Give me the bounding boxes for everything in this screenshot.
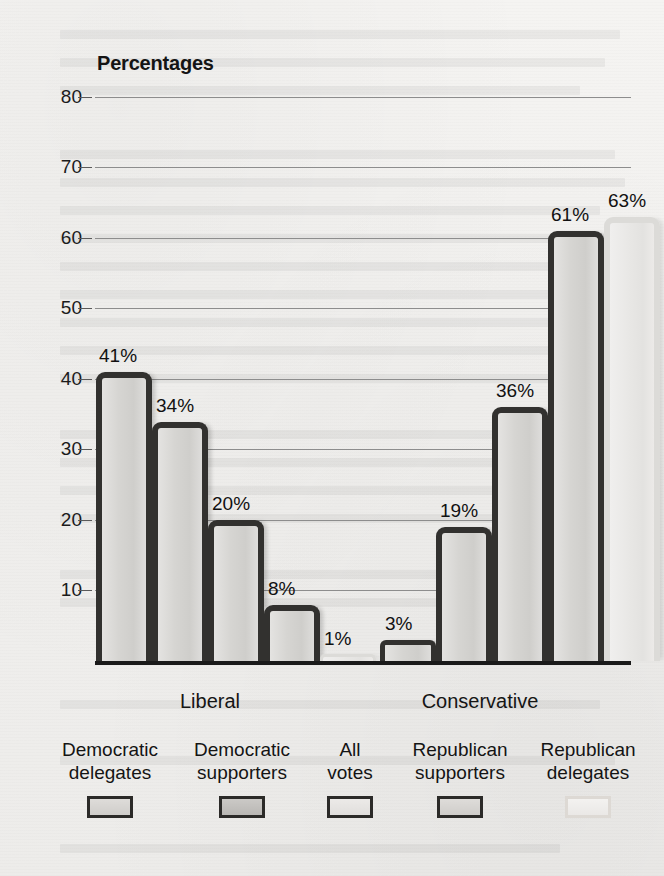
ytick-dash-10 bbox=[78, 590, 92, 591]
bar-conservative-democratic-delegates[interactable] bbox=[380, 640, 436, 661]
ytick-label-30: 30 bbox=[36, 438, 82, 460]
ytick-dash-30 bbox=[78, 449, 92, 450]
legend-item-republican-delegates[interactable]: Republican delegates bbox=[528, 738, 648, 818]
legend-item-democratic-supporters[interactable]: Democratic supporters bbox=[182, 738, 302, 818]
bar-conservative-all-votes[interactable] bbox=[492, 407, 548, 661]
ytick-label-40: 40 bbox=[36, 368, 82, 390]
bar-liberal-republican-delegates[interactable] bbox=[320, 654, 376, 661]
bar-chart: Percentages 80 70 60 50 40 30 20 10 41% bbox=[0, 0, 664, 876]
chart-title: Percentages bbox=[97, 52, 214, 75]
bar-value-conservative-democratic-supporters: 19% bbox=[440, 500, 478, 522]
ytick-dash-40 bbox=[78, 379, 92, 380]
legend-swatch-democratic-delegates bbox=[87, 796, 133, 818]
bar-conservative-republican-supporters[interactable] bbox=[548, 231, 604, 661]
ytick-dash-60 bbox=[78, 238, 92, 239]
bar-liberal-democratic-delegates[interactable] bbox=[96, 372, 152, 661]
ytick-label-20: 20 bbox=[36, 509, 82, 531]
legend-label-line2: supporters bbox=[400, 761, 520, 784]
bar-conservative-republican-delegates[interactable] bbox=[604, 217, 660, 661]
legend-label-line1: Democratic bbox=[50, 738, 170, 761]
group-label-liberal: Liberal bbox=[140, 690, 280, 713]
bar-conservative-democratic-supporters[interactable] bbox=[436, 527, 492, 661]
ytick-dash-50 bbox=[78, 308, 92, 309]
ytick-dash-70 bbox=[78, 167, 92, 168]
legend-label-line1: Republican bbox=[528, 738, 648, 761]
ytick-label-60: 60 bbox=[36, 227, 82, 249]
bar-value-liberal-democratic-delegates: 41% bbox=[99, 345, 137, 367]
legend-label-line1: Democratic bbox=[182, 738, 302, 761]
bar-value-liberal-republican-supporters: 8% bbox=[268, 578, 295, 600]
bar-liberal-republican-supporters[interactable] bbox=[264, 605, 320, 661]
bar-value-liberal-all-votes: 20% bbox=[212, 493, 250, 515]
bar-liberal-democratic-supporters[interactable] bbox=[152, 422, 208, 661]
bar-value-conservative-republican-supporters: 61% bbox=[551, 204, 589, 226]
bar-value-liberal-democratic-supporters: 34% bbox=[156, 395, 194, 417]
legend-label-line1: Republican bbox=[400, 738, 520, 761]
legend-item-republican-supporters[interactable]: Republican supporters bbox=[400, 738, 520, 818]
legend-swatch-all-votes bbox=[327, 796, 373, 818]
legend-swatch-republican-delegates bbox=[565, 796, 611, 818]
legend-label-line2: supporters bbox=[182, 761, 302, 784]
legend-label-line2: delegates bbox=[528, 761, 648, 784]
bar-value-conservative-all-votes: 36% bbox=[496, 380, 534, 402]
ytick-label-50: 50 bbox=[36, 297, 82, 319]
ytick-label-10: 10 bbox=[36, 579, 82, 601]
legend-swatch-democratic-supporters bbox=[219, 796, 265, 818]
chart-page: Percentages 80 70 60 50 40 30 20 10 41% bbox=[0, 0, 664, 876]
group-label-conservative: Conservative bbox=[390, 690, 570, 713]
legend-swatch-republican-supporters bbox=[437, 796, 483, 818]
legend-label-line2: delegates bbox=[50, 761, 170, 784]
gridline-70 bbox=[95, 167, 631, 168]
legend-label-line2: votes bbox=[308, 761, 392, 784]
bar-value-liberal-republican-delegates: 1% bbox=[324, 628, 351, 650]
ytick-label-80: 80 bbox=[36, 86, 82, 108]
x-axis-baseline bbox=[95, 661, 631, 665]
legend-label-line1: All bbox=[308, 738, 392, 761]
ytick-dash-80 bbox=[78, 97, 92, 98]
bar-liberal-all-votes[interactable] bbox=[208, 520, 264, 661]
ytick-label-70: 70 bbox=[36, 156, 82, 178]
legend-item-all-votes[interactable]: All votes bbox=[308, 738, 392, 818]
ytick-dash-20 bbox=[78, 520, 92, 521]
bar-value-conservative-democratic-delegates: 3% bbox=[385, 613, 412, 635]
bar-value-conservative-republican-delegates: 63% bbox=[608, 190, 646, 212]
legend-item-democratic-delegates[interactable]: Democratic delegates bbox=[50, 738, 170, 818]
gridline-80 bbox=[95, 97, 631, 98]
